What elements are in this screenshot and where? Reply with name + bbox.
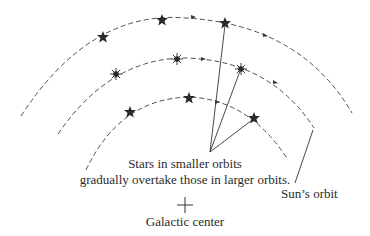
star-icon	[124, 106, 136, 118]
galactic-center-cross-icon	[177, 197, 193, 213]
sunburst-star-icon	[171, 53, 183, 65]
galactic-center-label: Galactic center	[0, 214, 370, 230]
sunburst-star-icon	[235, 63, 247, 75]
star-icon	[183, 92, 195, 104]
sun-orbit-label: Sun’s orbit	[281, 186, 338, 202]
pointer-lines	[210, 25, 252, 152]
caption-line-1: Stars in smaller orbits	[0, 156, 370, 172]
stars-burst	[110, 53, 247, 80]
star-icon	[156, 14, 168, 26]
direction-arrows	[191, 15, 278, 104]
sunburst-star-icon	[110, 68, 122, 80]
